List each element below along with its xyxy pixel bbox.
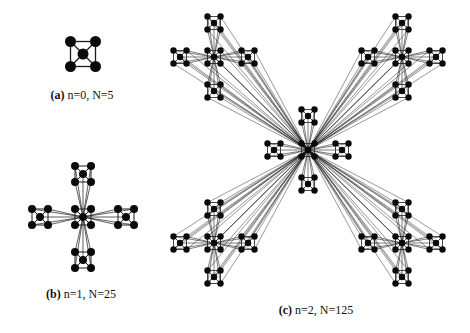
node bbox=[298, 187, 304, 193]
node bbox=[217, 60, 223, 66]
node bbox=[405, 13, 411, 19]
edge bbox=[308, 98, 396, 151]
node bbox=[399, 88, 405, 94]
edge bbox=[308, 91, 402, 150]
edge bbox=[174, 150, 309, 237]
node bbox=[332, 153, 338, 159]
node bbox=[311, 140, 317, 146]
node bbox=[298, 153, 304, 159]
node bbox=[170, 47, 176, 53]
edge bbox=[221, 150, 309, 284]
node bbox=[217, 81, 223, 87]
node bbox=[271, 147, 277, 153]
node bbox=[264, 153, 270, 159]
edge bbox=[221, 30, 309, 151]
node bbox=[251, 60, 257, 66]
edge bbox=[187, 150, 309, 237]
node bbox=[399, 54, 405, 60]
node bbox=[217, 47, 223, 53]
node bbox=[170, 60, 176, 66]
caption-panel-c-label: (c) bbox=[279, 303, 292, 317]
node bbox=[211, 274, 217, 280]
node bbox=[251, 246, 257, 252]
node bbox=[183, 47, 189, 53]
edge bbox=[308, 85, 409, 151]
node bbox=[371, 246, 377, 252]
node bbox=[392, 13, 398, 19]
edge bbox=[242, 64, 309, 151]
node bbox=[71, 162, 79, 170]
edge bbox=[255, 51, 309, 151]
node bbox=[392, 233, 398, 239]
node bbox=[392, 47, 398, 53]
node bbox=[392, 246, 398, 252]
edge bbox=[221, 150, 309, 271]
node bbox=[392, 94, 398, 100]
node bbox=[90, 61, 101, 72]
edge bbox=[208, 150, 309, 203]
node bbox=[238, 47, 244, 53]
node bbox=[371, 60, 377, 66]
node bbox=[358, 233, 364, 239]
node bbox=[345, 140, 351, 146]
panel-b-graph-n1 bbox=[28, 162, 138, 272]
edge bbox=[187, 64, 309, 151]
node bbox=[298, 119, 304, 125]
node bbox=[305, 181, 311, 187]
node bbox=[217, 280, 223, 286]
node bbox=[251, 47, 257, 53]
node bbox=[439, 47, 445, 53]
node bbox=[405, 60, 411, 66]
node bbox=[204, 246, 210, 252]
node bbox=[365, 240, 371, 246]
node bbox=[183, 246, 189, 252]
caption-panel-c-text: n=2, N=125 bbox=[295, 303, 353, 317]
node bbox=[204, 199, 210, 205]
edge bbox=[187, 150, 309, 250]
node bbox=[204, 81, 210, 87]
node bbox=[433, 54, 439, 60]
edge bbox=[208, 150, 309, 271]
node bbox=[204, 233, 210, 239]
node bbox=[264, 140, 270, 146]
node bbox=[217, 267, 223, 273]
node bbox=[311, 106, 317, 112]
node bbox=[392, 212, 398, 218]
node bbox=[114, 221, 122, 229]
node bbox=[130, 205, 138, 213]
node bbox=[177, 54, 183, 60]
edge bbox=[308, 150, 430, 250]
node bbox=[245, 240, 251, 246]
node bbox=[79, 170, 87, 178]
node bbox=[245, 54, 251, 60]
node bbox=[392, 60, 398, 66]
edge bbox=[208, 150, 309, 237]
edge bbox=[308, 150, 396, 250]
node bbox=[183, 60, 189, 66]
node bbox=[358, 60, 364, 66]
edge bbox=[208, 85, 309, 151]
panel-a-graph-n0 bbox=[65, 36, 101, 72]
node bbox=[217, 199, 223, 205]
edge bbox=[242, 51, 309, 151]
node bbox=[405, 199, 411, 205]
node bbox=[211, 88, 217, 94]
node bbox=[399, 240, 405, 246]
edge bbox=[221, 85, 309, 151]
node bbox=[183, 233, 189, 239]
edge bbox=[208, 30, 309, 151]
node bbox=[204, 47, 210, 53]
edge bbox=[208, 64, 309, 151]
node bbox=[28, 205, 36, 213]
node bbox=[405, 233, 411, 239]
node bbox=[426, 60, 432, 66]
edge bbox=[308, 30, 396, 151]
edge bbox=[208, 98, 309, 151]
node bbox=[439, 60, 445, 66]
edge bbox=[308, 51, 362, 151]
node bbox=[177, 240, 183, 246]
node bbox=[371, 233, 377, 239]
caption-panel-c: (c) n=2, N=125 bbox=[279, 303, 354, 318]
node bbox=[87, 264, 95, 272]
node bbox=[298, 106, 304, 112]
